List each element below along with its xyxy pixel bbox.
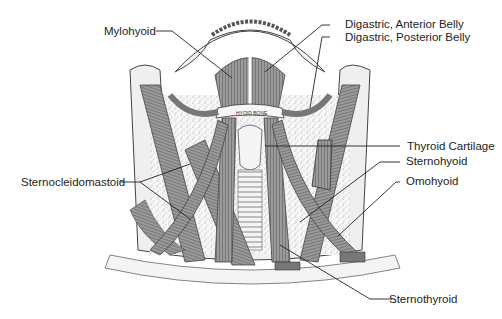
teeth [212, 22, 290, 36]
svg-text:HYOID BONE: HYOID BONE [236, 110, 268, 116]
neck-muscle-diagram: HYOID BONE [0, 0, 502, 319]
label-mylohyoid: Mylohyoid [104, 25, 156, 38]
label-sternohyoid: Sternohyoid [406, 155, 467, 168]
label-digastric-anterior-belly: Digastric, Anterior Belly [345, 18, 464, 31]
label-sternocleidomastoid: Sternocleidomastoid [21, 176, 125, 189]
label-thyroid-cartilage: Thyroid Cartilage [407, 140, 495, 153]
label-omohyoid: Omohyoid [406, 175, 458, 188]
thyroid-cartilage-shape [238, 125, 262, 170]
label-sternothyroid: Sternothyroid [389, 293, 457, 306]
label-digastric-posterior-belly: Digastric, Posterior Belly [345, 31, 470, 44]
